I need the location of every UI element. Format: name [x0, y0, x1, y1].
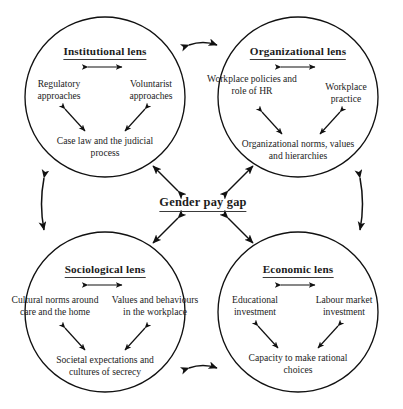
connector-center-to-institutional	[153, 166, 178, 191]
connector-center-to-organizational	[228, 166, 253, 191]
node-economic-left: Educational investment	[215, 294, 295, 317]
connector-left-vertical	[42, 178, 45, 230]
node-sociological-right: Values and behaviours in the workplace	[111, 294, 199, 317]
node-organizational-bottom: Organizational norms, values and hierarc…	[240, 138, 356, 161]
figure-canvas: Institutional lens Regulatory approaches…	[0, 0, 403, 409]
node-organizational-right: Workplace practice	[311, 81, 381, 104]
node-sociological-bottom: Societal expectations and cultures of se…	[40, 354, 170, 377]
lens-title-institutional: Institutional lens	[63, 45, 146, 60]
lens-title-organizational: Organizational lens	[250, 45, 346, 60]
lens-title-sociological: Sociological lens	[65, 263, 146, 278]
connector-center-to-sociological	[153, 218, 178, 243]
connector-center-to-economic	[228, 218, 253, 243]
node-institutional-bottom: Case law and the judicial process	[53, 135, 157, 158]
node-institutional-right: Voluntarist approaches	[110, 78, 192, 101]
node-institutional-left: Regulatory approaches	[18, 78, 100, 101]
node-economic-bottom: Capacity to make rational choices	[246, 352, 350, 375]
connector-top-horizontal	[189, 43, 217, 46]
node-organizational-left: Workplace policies and role of HR	[206, 73, 298, 96]
connector-bottom-horizontal	[189, 366, 217, 369]
node-sociological-left: Cultural norms around care and the home	[8, 294, 102, 317]
node-economic-right: Labour market investment	[302, 294, 386, 317]
center-label-gender-pay-gap: Gender pay gap	[159, 196, 246, 212]
connector-right-vertical	[360, 178, 363, 230]
lens-title-economic: Economic lens	[263, 263, 334, 278]
